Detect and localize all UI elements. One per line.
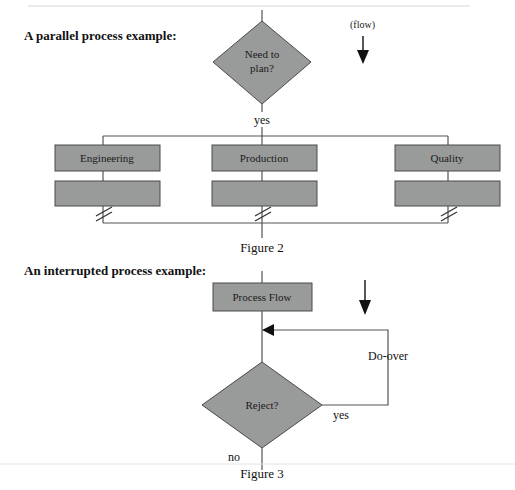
flow-direction-arrow-bottom <box>359 280 371 315</box>
reject-yes-label: yes <box>333 408 349 422</box>
branch-subbox-engineering <box>55 181 160 206</box>
reject-no-label: no <box>228 450 240 464</box>
loop-do-over-label: Do-over <box>368 349 408 363</box>
flow-annotation-label: (flow) <box>350 19 375 31</box>
decision-need-to-plan-line1: Need to <box>245 48 280 60</box>
break-mark-production <box>255 207 271 221</box>
branch-label-engineering: Engineering <box>80 152 134 164</box>
branch-label-production: Production <box>240 152 289 164</box>
decision-yes-label: yes <box>254 113 270 127</box>
process-flow-label: Process Flow <box>233 291 292 303</box>
break-mark-engineering <box>96 207 112 221</box>
figure-3-caption: Figure 3 <box>240 466 284 481</box>
loopback-arrow-head <box>262 324 274 336</box>
branch-label-quality: Quality <box>431 152 464 164</box>
flow-direction-arrow-top <box>357 36 369 64</box>
break-mark-quality <box>441 207 457 221</box>
decision-reject-label: Reject? <box>246 399 279 411</box>
flowchart-page: A parallel process example: (flow) Need … <box>0 0 515 490</box>
interrupted-section-heading: An interrupted process example: <box>24 263 206 278</box>
branch-subbox-quality <box>395 181 500 206</box>
parallel-section-heading: A parallel process example: <box>24 28 177 43</box>
decision-need-to-plan-line2: plan? <box>250 62 274 74</box>
branch-subbox-production <box>212 181 317 206</box>
figure-2-caption: Figure 2 <box>240 240 284 255</box>
diagram-canvas: A parallel process example: (flow) Need … <box>0 0 515 490</box>
